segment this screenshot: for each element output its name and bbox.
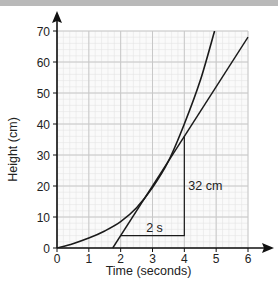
y-tick-label: 10 bbox=[37, 211, 51, 225]
x-tick-label: 0 bbox=[54, 252, 61, 266]
y-axis-title: Height (cm) bbox=[6, 117, 20, 182]
x-axis-title: Time (seconds) bbox=[106, 264, 192, 278]
y-tick-label: 20 bbox=[37, 180, 51, 194]
y-tick-label: 50 bbox=[37, 87, 51, 101]
rise-label: 32 cm bbox=[188, 179, 222, 193]
y-tick-label: 70 bbox=[37, 25, 51, 39]
chart: 0123456010203040506070Time (seconds)Heig… bbox=[0, 0, 278, 292]
y-tick-label: 40 bbox=[37, 118, 51, 132]
y-tick-label: 30 bbox=[37, 149, 51, 163]
y-tick-label: 60 bbox=[37, 56, 51, 70]
x-tick-label: 5 bbox=[213, 252, 220, 266]
run-label: 2 s bbox=[146, 221, 163, 235]
x-tick-label: 6 bbox=[245, 252, 252, 266]
x-tick-label: 1 bbox=[85, 252, 92, 266]
y-tick-label: 0 bbox=[43, 242, 50, 256]
